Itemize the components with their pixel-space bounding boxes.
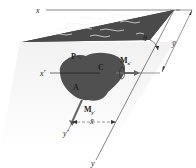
y-axis-label: y [90,159,95,168]
centroid-label: C [98,63,104,72]
fluid-surface [22,10,174,42]
diagram-canvas: x y ȳ θ x′ P C A Mx′ [0,0,196,168]
theta-label: θ [143,34,147,43]
point-p-label: P [71,52,76,61]
y-bar-label: ȳ [171,39,176,48]
x-bar-label: x̄ [89,117,94,126]
x-axis-label: x [35,6,40,15]
y-prime-label: y′ [62,129,69,138]
area-label: A [73,83,79,92]
x-prime-label: x′ [39,69,46,78]
